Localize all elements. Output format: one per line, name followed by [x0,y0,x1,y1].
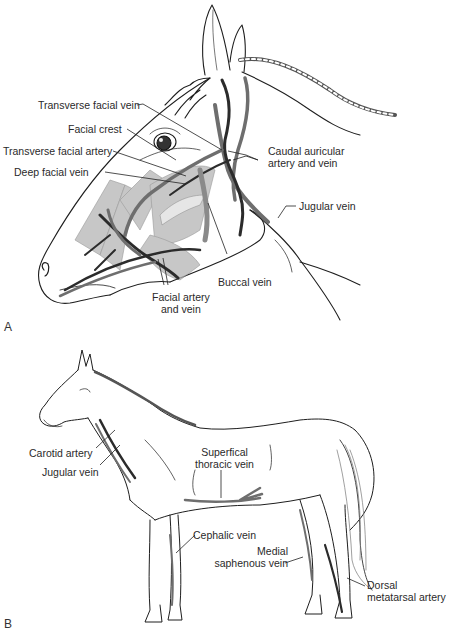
label-dorsal-metatarsal-artery: Dorsal metatarsal artery [367,579,446,603]
label-jugular-vein-a: Jugular vein [299,200,356,212]
label-superficial-thoracic-vein: Superfical thoracic vein [195,446,254,470]
label-carotid-artery: Carotid artery [29,447,93,459]
label-line: Dorsal [367,579,446,591]
label-line: Facial artery [152,291,210,303]
panel-letter-a: A [4,320,12,334]
label-line: artery and vein [268,157,344,169]
label-line: Caudal auricular [268,145,344,157]
label-caudal-auricular-artery-vein: Caudal auricular artery and vein [268,145,344,169]
label-medial-saphenous-vein: Medial saphenous vein [214,545,288,569]
anatomy-figure: Transverse facial vein Facial crest Tran… [0,0,453,637]
label-line: and vein [152,303,210,315]
label-cephalic-vein: Cephalic vein [193,529,256,541]
label-jugular-vein-b: Jugular vein [42,466,99,478]
label-facial-crest: Facial crest [68,123,122,135]
panel-letter-b: B [4,617,12,631]
label-line: saphenous vein [214,557,288,569]
label-transverse-facial-vein: Transverse facial vein [38,99,140,111]
label-buccal-vein: Buccal vein [218,276,272,288]
label-line: thoracic vein [195,458,254,470]
label-line: metatarsal artery [367,591,446,603]
label-transverse-facial-artery: Transverse facial artery [3,145,112,157]
label-deep-facial-vein: Deep facial vein [14,166,89,178]
label-line: Medial [214,545,288,557]
label-line: Superfical [195,446,254,458]
label-facial-artery-vein: Facial artery and vein [152,291,210,315]
